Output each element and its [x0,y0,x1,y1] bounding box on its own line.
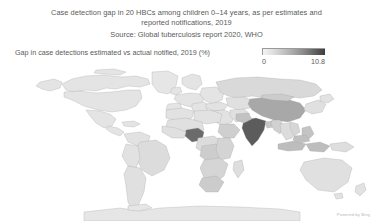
region-east-africa [216,138,234,160]
region-caribbean [122,121,140,127]
region-usa [64,90,142,112]
region-scandinavia [182,74,202,90]
region-japan-north [320,94,334,103]
region-new-guinea [330,142,354,152]
legend-colorbar-group: 0 10.8 [262,47,360,67]
map-canvas [0,66,373,221]
page-title-line-1: Case detection gap in 20 HBCs among chil… [0,8,373,18]
region-mexico [86,110,116,128]
map-land-layer [36,69,366,221]
page-title-line-2: reported notifications, 2019 [0,18,373,28]
region-tasmania [334,193,343,199]
world-choropleth-map[interactable]: Powered by Bing [0,66,373,221]
legend-tick-min: 0 [262,57,266,66]
legend-gradient-bar [262,48,325,55]
report-page: Case detection gap in 20 HBCs among chil… [0,0,373,221]
region-uk-ireland [170,87,182,95]
legend-title-label: Gap in case detections estimated vs actu… [15,48,210,58]
chart-title-block: Case detection gap in 20 HBCs among chil… [0,8,373,40]
region-antarctica [84,206,300,221]
region-canada-arctic-islands [94,69,126,75]
region-alaska [36,79,62,91]
region-central-america [106,126,124,136]
region-indonesia-east [306,142,330,152]
region-canada [62,75,150,92]
region-chile-argentina [124,166,146,210]
legend-tick-max: 10.8 [311,57,325,66]
region-horn-of-africa [218,124,240,138]
region-korea-japan [304,100,326,114]
region-new-zealand [355,183,366,196]
chart-legend: Gap in case detections estimated vs actu… [15,47,360,67]
bing-attribution-label: Powered by Bing [337,212,370,218]
region-turkey-caucasus [206,102,228,111]
region-australia [300,158,352,192]
chart-source-caption: Source: Global tuberculosis report 2020,… [0,29,373,40]
region-madagascar [233,160,244,178]
region-peru-bolivia [122,144,140,168]
